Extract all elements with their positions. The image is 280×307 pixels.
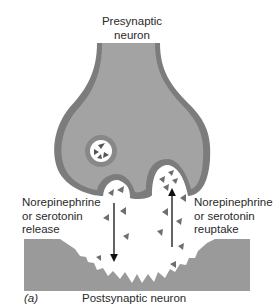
release-label: Norepinephrine or serotonin release: [22, 196, 101, 237]
release-label-line-1: Norepinephrine: [22, 196, 101, 210]
reuptake-label-line-2: or serotonin: [194, 210, 273, 224]
panel-label: (a): [24, 292, 38, 306]
presynaptic-neuron: [54, 43, 210, 199]
presynaptic-label-line-1: Presynaptic: [96, 15, 168, 29]
presynaptic-label-line-2: neuron: [96, 29, 168, 43]
presynaptic-label: Presynaptic neuron: [96, 15, 168, 42]
release-label-line-3: release: [22, 223, 101, 237]
synapse-diagram: Presynaptic neuron Norepinephrine or ser…: [0, 0, 280, 307]
synaptic-vesicle: [85, 135, 117, 167]
release-label-line-2: or serotonin: [22, 210, 101, 224]
reuptake-label: Norepinephrine or serotonin reuptake: [194, 196, 273, 237]
reuptake-label-line-3: reuptake: [194, 223, 273, 237]
reuptake-label-line-1: Norepinephrine: [194, 196, 273, 210]
postsynaptic-label: Postsynaptic neuron: [82, 292, 186, 306]
